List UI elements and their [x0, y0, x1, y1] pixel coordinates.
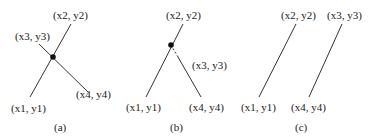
label-x2-y2: (x2, y2): [281, 9, 316, 22]
label-x1-y1: (x1, y1): [126, 101, 161, 114]
label-x3-y3: (x3, y3): [15, 30, 50, 43]
panel-c: (x2, y2) (x3, y3) (x1, y1) (x4, y4) (c): [241, 9, 362, 134]
label-x1-y1: (x1, y1): [241, 101, 276, 114]
label-x4-y4: (x4, y4): [76, 88, 111, 101]
caption-a: (a): [54, 121, 67, 134]
panel-b: (x2, y2) (x3, y3) (x4, y4) (x1, y1) (b): [126, 9, 227, 134]
label-x3-y3: (x3, y3): [192, 59, 227, 72]
intersection-point: [168, 42, 174, 48]
intersection-point: [50, 54, 56, 60]
segment-p1-p2: [146, 24, 183, 97]
label-x2-y2: (x2, y2): [166, 9, 201, 22]
panel-a: (x2, y2) (x3, y3) (x4, y4) (x1, y1) (a): [11, 9, 111, 134]
segment-p3-p4: [309, 24, 342, 97]
segment-p1-p2: [259, 24, 296, 97]
caption-c: (c): [295, 121, 308, 134]
label-x1-y1: (x1, y1): [11, 102, 46, 115]
label-x3-y3: (x3, y3): [327, 9, 362, 22]
label-x2-y2: (x2, y2): [53, 9, 88, 22]
caption-b: (b): [170, 121, 183, 134]
label-x4-y4: (x4, y4): [291, 101, 326, 114]
line-intersection-diagram: (x2, y2) (x3, y3) (x4, y4) (x1, y1) (a) …: [0, 0, 369, 137]
label-x4-y4: (x4, y4): [189, 101, 224, 114]
